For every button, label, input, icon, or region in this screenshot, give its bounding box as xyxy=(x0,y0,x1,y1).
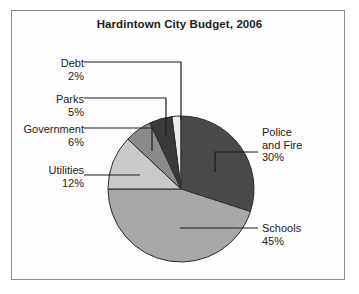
chart-screenshot: Hardintown City Budget, 2006 Debt 2% Par… xyxy=(0,0,359,294)
slice-label-debt: Debt 2% xyxy=(61,57,84,82)
slice-label-debt-pct: 2% xyxy=(61,70,84,83)
slice-label-utilities: Utilities 12% xyxy=(49,164,84,189)
slice-label-police-and-fire: Police and Fire 30% xyxy=(262,126,302,164)
slice-label-police-name2: and Fire xyxy=(262,139,302,152)
slice-label-schools-pct: 45% xyxy=(262,235,301,248)
slice-label-government-pct: 6% xyxy=(23,136,84,149)
slice-label-schools-name: Schools xyxy=(262,222,301,234)
slice-label-government-name: Government xyxy=(23,123,84,135)
slice-label-parks-pct: 5% xyxy=(56,106,84,119)
slice-label-parks-name: Parks xyxy=(56,93,84,105)
slice-label-parks: Parks 5% xyxy=(56,93,84,118)
slice-label-police-name: Police xyxy=(262,126,292,138)
slice-label-government: Government 6% xyxy=(23,123,84,148)
slice-label-utilities-pct: 12% xyxy=(49,177,84,190)
slice-label-police-pct: 30% xyxy=(262,151,302,164)
slice-label-debt-name: Debt xyxy=(61,57,84,69)
slice-label-schools: Schools 45% xyxy=(262,222,301,247)
pie-slices xyxy=(108,116,254,262)
slice-label-utilities-name: Utilities xyxy=(49,164,84,176)
